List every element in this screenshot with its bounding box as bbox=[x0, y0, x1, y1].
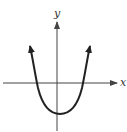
y-axis-label: y bbox=[53, 7, 61, 20]
parabola-graph: x y bbox=[0, 0, 127, 132]
x-axis-label: x bbox=[120, 76, 127, 89]
parabola-curve bbox=[30, 46, 60, 114]
parabola-curve-right bbox=[60, 46, 90, 114]
